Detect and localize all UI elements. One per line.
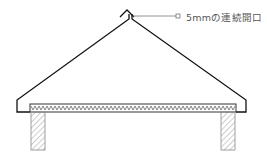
left-post bbox=[31, 112, 45, 150]
roof-right-slope bbox=[132, 14, 246, 112]
ridge-vent-label: 5mmの連続開口 bbox=[186, 10, 262, 24]
roof-section-diagram bbox=[0, 0, 267, 161]
roof-outline bbox=[17, 14, 246, 112]
roof-left-slope bbox=[17, 14, 129, 112]
annotation-leader bbox=[133, 14, 180, 18]
ceiling-insulation bbox=[30, 104, 236, 112]
right-post bbox=[221, 112, 235, 150]
